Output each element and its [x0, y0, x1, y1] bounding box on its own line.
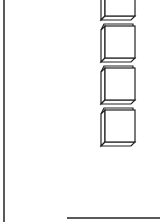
diagram-canvas: [0, 0, 160, 222]
cube-icon: [101, 0, 135, 20]
cube-stack: [101, 0, 135, 146]
cube-icon: [101, 24, 135, 62]
cube-icon: [101, 66, 135, 104]
cube-icon: [101, 108, 135, 146]
